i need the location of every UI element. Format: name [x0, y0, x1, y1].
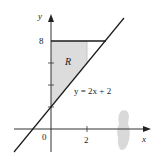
y-axis-arrow-icon: [48, 14, 54, 22]
origin-label: 0: [42, 132, 47, 142]
y-tick-label-8: 8: [39, 36, 44, 46]
x-axis-arrow-icon: [143, 126, 151, 132]
y-axis-label: y: [37, 11, 42, 21]
line-y-2x-plus-2: [14, 18, 124, 152]
graph: y x 8 0 2 R y = 2x + 2: [0, 0, 154, 163]
line-equation-label: y = 2x + 2: [74, 86, 111, 96]
x-tick-label-2: 2: [84, 135, 89, 145]
region-r: [51, 41, 87, 107]
artifact-blob: [117, 110, 130, 150]
region-label: R: [64, 56, 71, 67]
x-axis-label: x: [141, 134, 146, 144]
